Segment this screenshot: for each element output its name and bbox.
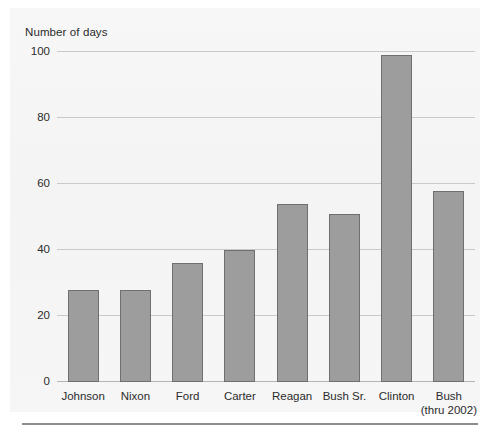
x-axis-label-main: Nixon (121, 390, 150, 402)
x-axis-label-main: Carter (224, 390, 256, 402)
bar (329, 214, 360, 382)
x-axis-tick-label: Bush(thru 2002) (421, 389, 477, 417)
bar (68, 290, 99, 382)
x-axis-label-main: Ford (176, 390, 200, 402)
y-axis-title: Number of days (25, 26, 108, 38)
bar (277, 204, 308, 382)
y-axis-tick-label: 0 (44, 375, 50, 387)
x-axis-label-main: Bush Sr. (323, 390, 366, 402)
y-axis-tick-label: 40 (37, 243, 50, 255)
bar (381, 55, 412, 382)
x-axis-label-main: Clinton (379, 390, 415, 402)
x-axis-tick-label: Bush Sr. (323, 389, 366, 403)
bar (172, 263, 203, 382)
y-axis-tick-label: 60 (37, 177, 50, 189)
gridline-40: 40 (57, 249, 475, 250)
gridline-60: 60 (57, 183, 475, 184)
gridline-80: 80 (57, 117, 475, 118)
x-axis-tick-label: Ford (176, 389, 200, 403)
bar (224, 250, 255, 382)
y-axis-tick-label: 80 (37, 111, 50, 123)
x-axis-label-main: Bush (436, 390, 462, 402)
gridline-100: 100 (57, 51, 475, 52)
x-axis-tick-label: Carter (224, 389, 256, 403)
x-axis-tick-label: Clinton (379, 389, 415, 403)
x-axis-tick-label: Reagan (272, 389, 312, 403)
chart-figure: Number of days 020406080100JohnsonNixonF… (0, 0, 500, 439)
x-axis-tick-label: Johnson (61, 389, 104, 403)
x-axis-tick-label: Nixon (121, 389, 150, 403)
y-axis-tick-label: 100 (31, 45, 50, 57)
x-axis-label-sub: (thru 2002) (421, 403, 477, 417)
bar (433, 191, 464, 382)
x-axis-label-main: Johnson (61, 390, 104, 402)
footer-divider (22, 423, 478, 425)
bar (120, 290, 151, 382)
x-axis-label-main: Reagan (272, 390, 312, 402)
plot-area: 020406080100JohnsonNixonFordCarterReagan… (57, 52, 475, 382)
y-axis-tick-label: 20 (37, 309, 50, 321)
